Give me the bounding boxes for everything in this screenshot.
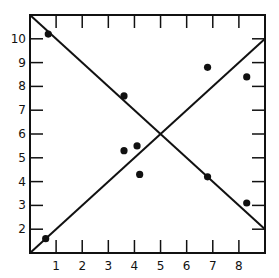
data-point — [243, 199, 250, 206]
x-tick-label: 6 — [183, 259, 191, 273]
increasing-line — [30, 39, 265, 253]
y-tick-label: 10 — [11, 32, 26, 46]
data-point — [120, 147, 127, 154]
x-tick-label: 8 — [235, 259, 243, 273]
x-tick-label: 1 — [52, 259, 60, 273]
decreasing-line — [30, 15, 265, 229]
y-tick-label: 5 — [18, 151, 26, 165]
y-tick-label: 7 — [18, 103, 26, 117]
y-tick-label: 2 — [18, 222, 26, 236]
x-tick-label: 3 — [105, 259, 113, 273]
data-point — [120, 92, 127, 99]
data-point — [136, 171, 143, 178]
x-tick-label: 4 — [131, 259, 139, 273]
y-tick-label: 4 — [18, 175, 26, 189]
y-tick-label: 8 — [18, 79, 26, 93]
x-tick-label: 5 — [157, 259, 165, 273]
data-point — [204, 64, 211, 71]
data-point — [42, 235, 49, 242]
plot-frame — [30, 15, 265, 253]
y-tick-label: 3 — [18, 198, 26, 212]
data-point — [204, 173, 211, 180]
y-tick-label: 9 — [18, 56, 26, 70]
data-point — [45, 30, 52, 37]
y-tick-label: 6 — [18, 127, 26, 141]
x-tick-label: 2 — [78, 259, 86, 273]
scatter-chart: 123456782345678910 — [0, 0, 279, 278]
data-point — [133, 142, 140, 149]
data-point — [243, 73, 250, 80]
x-tick-label: 7 — [209, 259, 217, 273]
